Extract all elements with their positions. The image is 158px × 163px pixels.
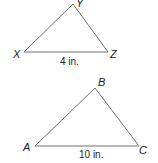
vertex-label-b: B [98, 76, 105, 88]
measure-ac: 10 in. [79, 149, 103, 160]
measure-xz: 4 in. [60, 56, 79, 67]
vertex-label-c: C [139, 144, 147, 156]
vertex-label-x: X [12, 48, 21, 60]
triangle-abc [35, 88, 139, 146]
vertex-label-y: Y [76, 0, 84, 9]
triangle-xyz [24, 4, 108, 52]
vertex-label-a: A [22, 141, 30, 153]
vertex-label-z: Z [109, 48, 118, 60]
similar-triangles-diagram: Y X Z 4 in. B A C 10 in. [0, 0, 158, 163]
